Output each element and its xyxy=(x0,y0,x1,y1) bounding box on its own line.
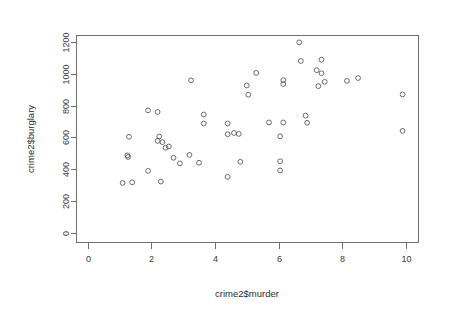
scatter-plot-figure: 0246810 020040060080010001200 crime2$mur… xyxy=(0,0,456,325)
y-tick-label: 800 xyxy=(61,99,71,114)
data-point xyxy=(254,71,259,76)
data-point xyxy=(178,161,183,166)
data-point xyxy=(319,57,324,62)
data-point xyxy=(298,59,303,64)
data-point xyxy=(246,92,251,97)
x-axis-title: crime2$murder xyxy=(215,288,279,299)
data-point xyxy=(187,153,192,158)
data-point xyxy=(305,120,310,125)
x-tick-label: 4 xyxy=(213,254,218,264)
data-point xyxy=(244,83,249,88)
data-point xyxy=(278,168,283,173)
x-tick-label: 2 xyxy=(149,254,154,264)
y-tick-label: 200 xyxy=(61,194,71,209)
y-tick-label: 400 xyxy=(61,162,71,177)
data-point xyxy=(314,68,319,73)
x-axis-tick-labels: 0246810 xyxy=(86,254,412,264)
data-point xyxy=(146,108,151,113)
data-point xyxy=(146,168,151,173)
plot-canvas: 0246810 020040060080010001200 crime2$mur… xyxy=(0,0,456,325)
y-tick-label: 1000 xyxy=(61,64,71,84)
data-point xyxy=(281,120,286,125)
data-point xyxy=(160,140,165,145)
data-point xyxy=(316,84,321,89)
data-point xyxy=(120,181,125,186)
y-tick-label: 600 xyxy=(61,130,71,145)
data-point xyxy=(201,121,206,126)
data-point xyxy=(197,160,202,165)
y-axis-title: crime2$burglary xyxy=(25,105,36,173)
data-point xyxy=(303,113,308,118)
x-tick-label: 10 xyxy=(401,254,411,264)
data-point xyxy=(201,112,206,117)
data-point xyxy=(127,134,132,139)
x-axis-tick-marks xyxy=(89,243,407,249)
x-tick-label: 8 xyxy=(340,254,345,264)
data-point xyxy=(278,159,283,164)
y-tick-label: 0 xyxy=(61,231,71,236)
data-point xyxy=(319,71,324,76)
data-point xyxy=(225,132,230,137)
data-point xyxy=(171,155,176,160)
data-point xyxy=(267,120,272,125)
data-point xyxy=(158,179,163,184)
data-point xyxy=(356,76,361,81)
data-point xyxy=(297,40,302,45)
data-point xyxy=(400,92,405,97)
data-point xyxy=(155,110,160,115)
data-point xyxy=(130,180,135,185)
data-point xyxy=(155,139,160,144)
data-point xyxy=(400,128,405,133)
data-point xyxy=(238,159,243,164)
x-tick-label: 6 xyxy=(277,254,282,264)
x-tick-label: 0 xyxy=(86,254,91,264)
data-point xyxy=(225,121,230,126)
y-axis-tick-marks xyxy=(71,43,77,234)
data-point xyxy=(278,134,283,139)
data-point xyxy=(232,131,237,136)
data-point xyxy=(225,175,230,180)
data-point xyxy=(236,132,241,137)
data-point xyxy=(345,78,350,83)
y-tick-label: 1200 xyxy=(61,32,71,52)
data-point-group xyxy=(120,40,405,185)
data-point xyxy=(189,78,194,83)
y-axis-tick-labels: 020040060080010001200 xyxy=(61,32,71,236)
data-point xyxy=(322,79,327,84)
